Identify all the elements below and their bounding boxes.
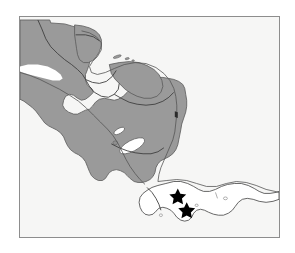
figure-page: Central America distribution map Shaded …	[0, 0, 295, 253]
map-figure-frame	[19, 16, 280, 238]
panama-small-island-3	[159, 214, 162, 217]
panama-small-island-2	[223, 197, 227, 200]
central-america-map	[20, 17, 279, 237]
bay-island-3	[132, 60, 135, 62]
panama-small-island-1	[195, 204, 198, 206]
nicaragua-coast-notch	[175, 111, 178, 118]
